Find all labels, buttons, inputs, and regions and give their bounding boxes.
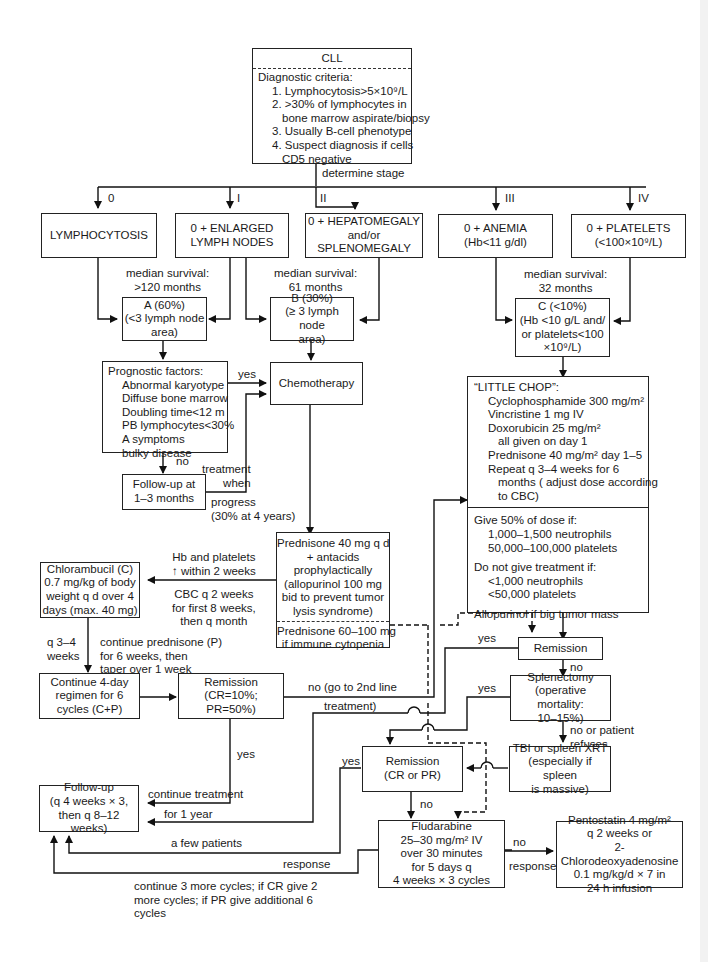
label-text: for first 8 weeks, (172, 602, 256, 616)
prognostic-heading: Prognostic factors: (108, 365, 227, 379)
label-text: continue 3 more cycles; if CR give 2 (134, 880, 317, 894)
edge-label-response: response (283, 858, 330, 872)
stage-4-box: 0 + PLATELETS (<100×10⁹/L) (571, 214, 686, 258)
group-a-text: (<3 lymph node (125, 312, 205, 326)
group-c-text: ×10⁹/L) (544, 341, 582, 355)
little-chop-heading: “LITTLE CHOP”: (474, 381, 648, 395)
criteria-item: bone marrow aspirate/biopsy (258, 112, 411, 126)
follow-up-text: Follow-up at (133, 478, 196, 492)
group-c-box: C (<10%) (Hb <10 g/L and/ or platelets<1… (515, 298, 610, 357)
prognostic-item: Diffuse bone marrow (108, 392, 227, 406)
chlorambucil-box: Chlorambucil (C) 0.7 mg/kg of body weigh… (40, 562, 140, 618)
survival-label-a: median survival: >120 months (126, 267, 209, 294)
page-edge-shadow (700, 0, 708, 962)
survival-text: median survival: (524, 268, 607, 282)
stage-label-4: IV (638, 192, 649, 206)
chlorambucil-text: weight q d over 4 (46, 590, 134, 604)
edge-label-treatment: treatment) (324, 700, 376, 714)
stage-1-box: 0 + ENLARGED LYMPH NODES (175, 213, 289, 258)
label-text: ↑ within 2 weeks (172, 565, 256, 579)
prednisone-box: Prednisone 40 mg q d + antacids prophyla… (276, 532, 390, 648)
edge-label-for-1-year: for 1 year (164, 808, 213, 822)
pentostatin-text: 0.1 mg/kg/d × 7 in (574, 868, 666, 882)
group-c-text: (Hb <10 g/L and/ (520, 314, 606, 328)
edge-label-hb-platelets: Hb and platelets ↑ within 2 weeks (172, 551, 256, 578)
chemotherapy-text: Chemotherapy (279, 377, 354, 391)
label-text: then q month (172, 615, 256, 629)
edge-label-cbc: CBC q 2 weeks for first 8 weeks, then q … (172, 588, 256, 629)
label-text: q 3–4 (47, 636, 80, 650)
prednisone-text: prophylactically (277, 564, 389, 578)
tbi-text: is massive) (531, 783, 589, 797)
edge-label-treatment-when: treatment when (202, 463, 251, 490)
little-chop-item: Repeat q 3–4 weeks for 6 (474, 463, 648, 477)
prednisone-text: + antacids (277, 551, 389, 565)
survival-label-b: median survival: 61 months (274, 267, 357, 294)
survival-text: >120 months (126, 281, 209, 295)
remission-text: Remission (204, 676, 258, 690)
splenectomy-text: Splenectomy (527, 671, 593, 685)
little-chop-item: to CBC) (474, 490, 648, 504)
regimen-text: Continue 4-day (51, 676, 129, 690)
survival-label-c: median survival: 32 months (524, 268, 607, 295)
follow-up-text: 1–3 months (134, 492, 194, 506)
stage-1-text: LYMPH NODES (191, 236, 274, 250)
tbi-text: TBI or spleen XRT (513, 742, 607, 756)
remission-text: Remission (386, 755, 440, 769)
edge-label-yes-continue: yes (237, 748, 255, 762)
edge-label-yes-splenectomy: yes (478, 682, 496, 696)
chemotherapy-box: Chemotherapy (270, 362, 363, 405)
fludarabine-text: 25–30 mg/m² IV (401, 834, 483, 848)
fludarabine-text: over 30 minutes (401, 847, 483, 861)
edge-label-yes-remission: yes (478, 632, 496, 646)
label-text: treatment (202, 463, 251, 477)
edge-label-no-cr-pr: no (420, 798, 433, 812)
no-treatment-item: <50,000 platelets (474, 588, 648, 602)
criteria-item: 2. >30% of lymphocytes in (258, 98, 411, 112)
dose-reduction-item: 50,000–100,000 platelets (474, 542, 648, 556)
edge-label-continue-treatment: continue treatment (148, 788, 243, 802)
label-text: weeks (47, 650, 80, 664)
stage-4-text: (<100×10⁹/L) (595, 236, 663, 250)
follow-up-text: (q 4 weeks × 3, (50, 795, 128, 809)
edge-label-yes-cr-pr: yes (342, 755, 360, 769)
edge-label-response-2: response (509, 860, 556, 874)
stage-0-box: LYMPHOCYTOSIS (41, 213, 157, 258)
criteria-item: 3. Usually B-cell phenotype (258, 125, 411, 139)
pentostatin-box: Pentostatin 4 mg/m² q 2 weeks or 2-Chlor… (556, 821, 683, 888)
chlorambucil-text: 0.7 mg/kg of body (44, 576, 135, 590)
diagnostic-criteria-heading: Diagnostic criteria: (258, 71, 411, 85)
dose-reduction-heading: Give 50% of dose if: (474, 514, 648, 528)
stage-2-text: and/or (348, 229, 381, 243)
stage-2-text: 0 + HEPATOMEGALY (308, 215, 420, 229)
label-text: (30% at 4 years) (211, 510, 295, 524)
regimen-text: cycles (C+P) (57, 703, 123, 717)
label-text: more cycles; if PR give additional 6 (134, 894, 317, 908)
group-c-text: C (<10%) (538, 300, 587, 314)
splenectomy-text: (operative mortality: (511, 684, 610, 711)
prednisone-alt-text: if immune cytopenia (277, 638, 389, 652)
criteria-item: 4. Suspect diagnosis if cells (258, 139, 411, 153)
regimen-text: regimen for 6 (56, 689, 124, 703)
edge-label-a-few-patients: a few patients (171, 837, 242, 851)
group-b-text: (≥ 3 lymph node (271, 305, 353, 332)
group-c-text: or platelets<100 (521, 328, 603, 342)
little-chop-item: Cyclophosphamide 300 mg/m² (474, 395, 648, 409)
criteria-item: 1. Lymphocytosis>5×10⁹/L (258, 85, 411, 99)
fludarabine-text: for 5 days q (411, 861, 471, 875)
label-text: Hb and platelets (172, 551, 256, 565)
chlorambucil-text: days (max. 40 mg) (42, 604, 137, 618)
little-chop-box: “LITTLE CHOP”: Cyclophosphamide 300 mg/m… (467, 376, 649, 613)
group-a-text: A (60%) (144, 299, 185, 313)
prednisone-text: lysis syndrome) (277, 605, 389, 619)
survival-text: median survival: (274, 267, 357, 281)
prognostic-item: PB lymphocytes<30% (108, 419, 227, 433)
edge-label-progress: progress (30% at 4 years) (211, 496, 295, 523)
prognostic-item: A symptoms (108, 433, 227, 447)
stage-label-3: III (505, 192, 515, 206)
follow-up-text: then q 8–12 weeks) (40, 809, 138, 836)
stage-label-1: I (237, 192, 240, 206)
survival-text: median survival: (126, 267, 209, 281)
remission-text: (CR or PR) (384, 769, 441, 783)
dose-reduction-item: 1,000–1,500 neutrophils (474, 528, 648, 542)
